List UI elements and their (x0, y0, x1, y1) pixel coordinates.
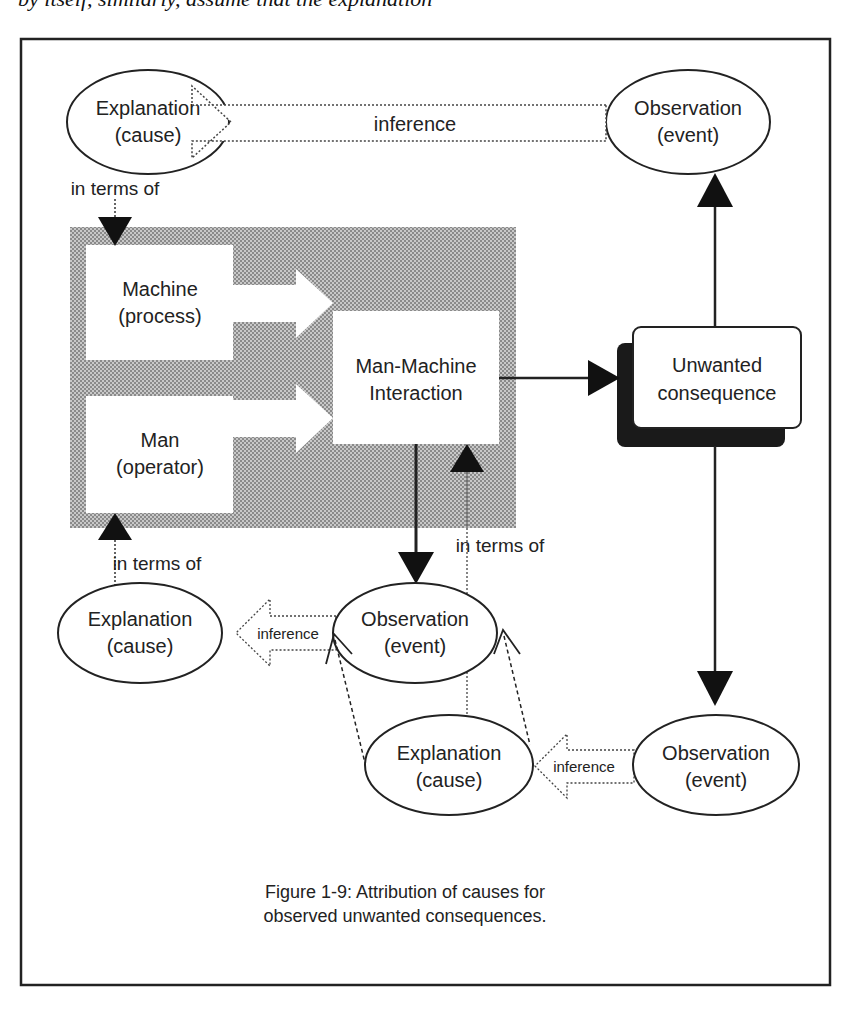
explanation-left-label: Explanation (88, 608, 193, 630)
explanation-left-sublabel: (cause) (107, 635, 174, 657)
man-label: Man (141, 429, 180, 451)
interaction-label: Man-Machine (355, 355, 476, 377)
observation-right-sublabel: (event) (685, 769, 747, 791)
machine-label: Machine (122, 278, 198, 300)
man-sublabel: (operator) (116, 456, 204, 478)
inference-mid-label: inference (257, 625, 319, 642)
unwanted-sublabel: consequence (658, 382, 777, 404)
diagram-canvas: Machine (process) Man (operator) Man-Mac… (0, 0, 863, 1024)
inference-bottom-label: inference (553, 758, 615, 775)
observation-top-sublabel: (event) (657, 124, 719, 146)
inference-top-label: inference (374, 113, 456, 135)
observation-mid-sublabel: (event) (384, 635, 446, 657)
explanation-top-sublabel: (cause) (115, 124, 182, 146)
machine-sublabel: (process) (118, 305, 201, 327)
observation-right-node: Observation (event) (633, 715, 799, 815)
in-terms-of-left-label: in terms of (113, 553, 202, 574)
explanation-left-node: Explanation (cause) (58, 583, 222, 683)
unwanted-label: Unwanted (672, 354, 762, 376)
observation-mid-node: Observation (event) (333, 583, 497, 683)
observation-top-label: Observation (634, 97, 742, 119)
figure-caption-line2: observed unwanted consequences. (263, 906, 546, 926)
arrowhead-up-icon (697, 173, 733, 207)
explanation-top-label: Explanation (96, 97, 201, 119)
man-box: Man (operator) (86, 396, 233, 513)
machine-box: Machine (process) (86, 245, 233, 360)
in-terms-of-top-label: in terms of (71, 178, 160, 199)
interaction-sublabel: Interaction (369, 382, 462, 404)
interaction-box: Man-Machine Interaction (333, 311, 499, 444)
unwanted-consequence-box: Unwanted consequence (617, 327, 801, 447)
arrowhead-down-icon (398, 552, 434, 584)
explanation-top-node: Explanation (cause) (67, 70, 229, 174)
figure-caption-line1: Figure 1-9: Attribution of causes for (265, 882, 545, 902)
observation-right-label: Observation (662, 742, 770, 764)
arrowhead-right-icon (588, 360, 620, 396)
observation-top-node: Observation (event) (606, 70, 770, 174)
explanation-bottom-sublabel: (cause) (416, 769, 483, 791)
observation-mid-label: Observation (361, 608, 469, 630)
explanation-bottom-label: Explanation (397, 742, 502, 764)
arrowhead-down-icon (697, 671, 733, 706)
explanation-bottom-node: Explanation (cause) (365, 715, 533, 815)
in-terms-of-mid-label: in terms of (456, 535, 545, 556)
